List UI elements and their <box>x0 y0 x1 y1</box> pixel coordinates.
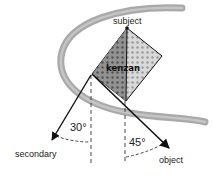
object-label: object <box>159 155 184 165</box>
secondary-angle-label: 30° <box>70 121 87 133</box>
ikebana-kenzan-diagram: subject kenzan secondary object 30° 45° <box>0 0 213 176</box>
subject-point <box>125 26 129 30</box>
secondary-angle-arc <box>56 136 90 142</box>
kenzan-label: kenzan <box>106 63 140 73</box>
object-angle-label: 45° <box>129 136 146 148</box>
subject-label: subject <box>113 16 142 26</box>
secondary-label: secondary <box>15 149 57 159</box>
